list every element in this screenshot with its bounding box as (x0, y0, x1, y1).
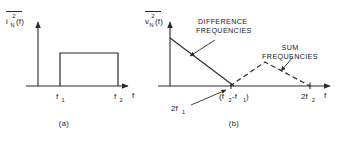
panel-b-xtick-f2-minus-f1: (f 2 -f 1 ) (219, 92, 249, 103)
panel-b-xtick-2f2-sub: 2 (312, 97, 315, 103)
sum-frequencies-label-line1: SUM (281, 43, 298, 52)
sum-frequencies-label-line2: FREQUENCIES (262, 52, 318, 61)
panel-a-xtick-f1-base: f (56, 92, 59, 101)
panel-b-xtick-2f1: 2f 1 (171, 104, 185, 115)
difference-frequencies-label-line1: DIFFERENCE (198, 17, 247, 26)
panel-a-xtick-f1-sub: 1 (62, 97, 65, 103)
panel-a-y-label-argument: (f) (16, 17, 24, 26)
panel-a-xtick-f2-base: f (114, 92, 117, 101)
panel-b-xtick-2f2: 2f 2 (301, 92, 315, 103)
panel-a-y-label-subscript: N (11, 22, 15, 28)
difference-frequencies-leader (190, 40, 215, 56)
panel-a-noise-band-rect (60, 53, 118, 86)
panel-b-xtick-f2mf1-close: ) (246, 92, 249, 101)
panel-b-y-label-subscript: N (150, 22, 154, 28)
panel-b-x-axis-label: f (324, 91, 327, 100)
difference-frequencies-label: DIFFERENCE FREQUENCIES (196, 17, 252, 35)
panel-b-xtick-2f1-sub: 1 (182, 109, 185, 115)
panel-a-xtick-f1: f 1 (56, 92, 65, 103)
figure-svg: 2 i N (f) f 1 f 2 f (a) (0, 0, 342, 141)
figure-container: 2 i N (f) f 1 f 2 f (a) (0, 0, 342, 141)
difference-frequencies-curve (170, 38, 234, 86)
panel-a-y-label-base: i (6, 17, 8, 26)
panel-a: 2 i N (f) f 1 f 2 f (a) (6, 12, 135, 129)
panel-b-xtick-f2mf1-open: (f (219, 92, 225, 101)
sum-frequencies-curve (230, 62, 310, 86)
panel-b-y-label-argument: (f) (155, 17, 163, 26)
panel-a-x-axis-label: f (132, 91, 135, 100)
panel-a-caption: (a) (59, 119, 70, 128)
panel-b-y-axis-label: 2 v N (f) (145, 12, 163, 28)
panel-b-xtick-2f1-base: 2f (171, 104, 178, 113)
sum-frequencies-label: SUM FREQUENCIES (262, 43, 318, 61)
panel-a-xtick-f2-sub: 2 (120, 97, 123, 103)
difference-frequencies-label-line2: FREQUENCIES (196, 26, 252, 35)
panel-b-caption: (b) (229, 119, 240, 128)
panel-b: 2 v N (f) DIFFERENCE FREQUENCIES (145, 12, 330, 129)
panel-b-xtick-2f2-base: 2f (301, 92, 308, 101)
panel-a-y-axis-label: 2 i N (f) (6, 12, 24, 28)
panel-a-xtick-f2: f 2 (114, 92, 123, 103)
panel-b-xtick-f2mf1-mid: -f (232, 92, 238, 101)
